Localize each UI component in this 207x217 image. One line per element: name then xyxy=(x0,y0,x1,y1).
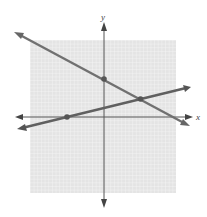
y-axis-label: y xyxy=(100,12,105,22)
y-axis-down-arrow-icon xyxy=(101,199,107,208)
y-axis-up-arrow-icon xyxy=(101,22,107,31)
x-axis-label: x xyxy=(195,112,200,122)
line-1-right-arrow-icon xyxy=(180,119,190,126)
point-x-intercept xyxy=(64,114,70,120)
line-1-left-arrow-icon xyxy=(14,32,24,39)
line-2-right-arrow-icon xyxy=(183,85,191,92)
point-intersection xyxy=(138,96,144,102)
x-axis-right-arrow-icon xyxy=(185,114,193,120)
line-2-left-arrow-icon xyxy=(17,124,27,131)
coordinate-plane: x y xyxy=(0,0,207,217)
x-axis-left-arrow-icon xyxy=(15,114,23,120)
point-y-intercept xyxy=(101,76,107,82)
